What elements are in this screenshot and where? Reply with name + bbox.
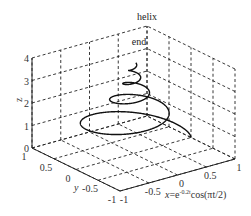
tick-label: 0.5 bbox=[40, 162, 53, 173]
tick-label: -1 bbox=[108, 194, 116, 205]
tick-label: 1 bbox=[22, 151, 27, 162]
x-axis-label: x=e-0.2tcos(πt/2) bbox=[164, 189, 226, 201]
y-axis-label: y bbox=[73, 182, 79, 193]
tick-label: -0.5 bbox=[82, 183, 98, 194]
tick-label: 0 bbox=[179, 178, 184, 189]
tick-label: 0.5 bbox=[204, 170, 217, 181]
tick-label: 3 bbox=[24, 76, 29, 87]
grid-lines bbox=[32, 26, 235, 191]
tick-labels: 0123410.50-0.5-1-1-0.500.51 bbox=[22, 53, 242, 205]
end-annotation: end bbox=[132, 36, 146, 47]
tick-label: 1 bbox=[237, 162, 242, 173]
tick-label: 4 bbox=[24, 53, 29, 64]
tick-label: -1 bbox=[120, 194, 128, 205]
tick-label: 0 bbox=[66, 173, 71, 184]
chart-title: helix bbox=[137, 11, 157, 22]
helix-3d-plot: 0123410.50-0.5-1-1-0.500.51 helix end z … bbox=[0, 0, 251, 216]
tick-label: 1 bbox=[24, 121, 29, 132]
tick-label: 2 bbox=[24, 98, 29, 109]
helix-curve bbox=[80, 63, 191, 138]
z-axis-label: z bbox=[13, 97, 24, 102]
tick-label: -0.5 bbox=[145, 186, 161, 197]
